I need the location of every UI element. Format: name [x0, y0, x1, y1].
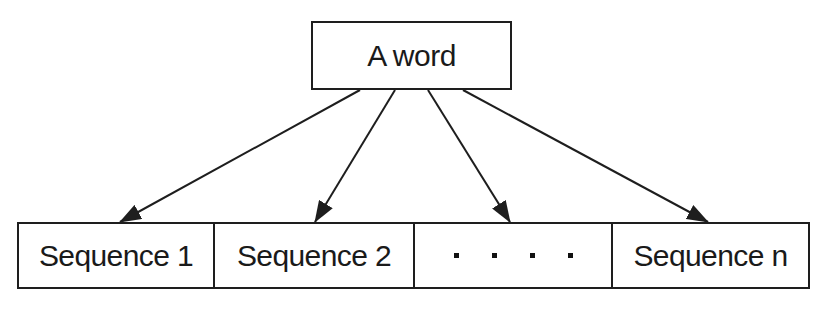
arrow-to-sequence-2 — [315, 90, 395, 222]
sequence-n-label: Sequence n — [633, 239, 787, 273]
ellipsis-dots — [454, 253, 573, 258]
sequence-1-label: Sequence 1 — [39, 239, 193, 273]
target-node-sequence-1: Sequence 1 — [19, 224, 215, 287]
target-node-ellipsis — [415, 224, 613, 287]
ellipsis-dot — [492, 253, 497, 258]
source-node-label: A word — [367, 39, 456, 73]
ellipsis-dot — [454, 253, 459, 258]
ellipsis-dot — [530, 253, 535, 258]
arrow-to-sequence-n — [463, 90, 708, 222]
sequence-row: Sequence 1 Sequence 2 Sequence n — [17, 222, 810, 289]
target-node-sequence-n: Sequence n — [613, 224, 808, 287]
arrow-to-sequence-1 — [120, 90, 360, 222]
target-node-sequence-2: Sequence 2 — [215, 224, 415, 287]
ellipsis-dot — [568, 253, 573, 258]
source-node-a-word: A word — [311, 21, 512, 90]
diagram-canvas: A word Sequence 1 Sequence 2 Sequence n — [0, 0, 829, 309]
sequence-2-label: Sequence 2 — [237, 239, 391, 273]
